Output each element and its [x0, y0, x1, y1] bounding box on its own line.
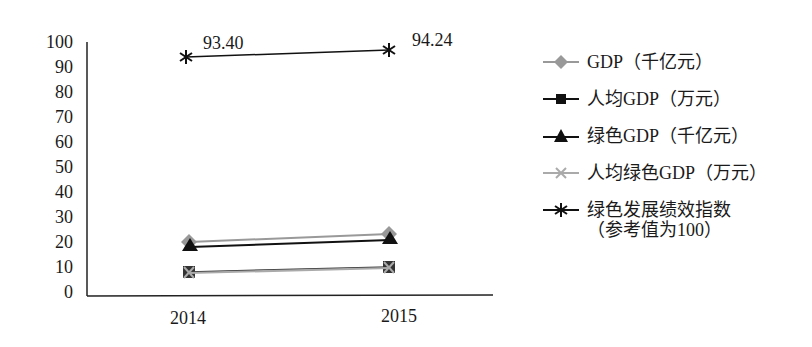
legend-item-per-capita-green-gdp: 人均绿色GDP（万元） — [543, 163, 803, 200]
y-tick: 30 — [55, 207, 73, 227]
legend-label: 绿色发展绩效指数 （参考值为100） — [587, 200, 731, 240]
diamond-marker-icon — [543, 52, 579, 72]
legend-item-gdp: GDP（千亿元） — [543, 52, 803, 89]
legend-item-green-index: 绿色发展绩效指数 （参考值为100） — [543, 200, 803, 237]
x-tick: 2014 — [170, 308, 206, 328]
y-tick: 20 — [55, 232, 73, 252]
x-marker-icon — [543, 163, 579, 183]
y-tick: 40 — [55, 182, 73, 202]
legend-label: 人均绿色GDP（万元） — [587, 163, 767, 183]
y-tick: 60 — [55, 132, 73, 152]
y-tick: 50 — [55, 157, 73, 177]
data-label-2015: 94.24 — [412, 30, 453, 50]
series-per-capita-green-gdp — [184, 262, 394, 278]
y-tick: 90 — [55, 57, 73, 77]
data-labels: 93.40 94.24 — [203, 30, 453, 53]
x-tick: 2015 — [381, 306, 417, 326]
y-tick-labels: 100 90 80 70 60 50 40 30 20 10 0 — [46, 32, 73, 302]
legend-item-green-gdp: 绿色GDP（千亿元） — [543, 126, 803, 163]
y-tick: 0 — [64, 282, 73, 302]
legend-label: 人均GDP（万元） — [587, 89, 731, 109]
square-marker-icon — [543, 89, 579, 109]
y-tick: 80 — [55, 82, 73, 102]
legend: GDP（千亿元） 人均GDP（万元） 绿色GDP（千亿元） 人均绿色GDP（万元… — [543, 52, 803, 237]
y-tick: 70 — [55, 107, 73, 127]
star-marker-icon — [543, 200, 579, 220]
legend-item-per-capita-gdp: 人均GDP（万元） — [543, 89, 803, 126]
data-label-2014: 93.40 — [203, 33, 244, 53]
legend-label: GDP（千亿元） — [587, 52, 713, 72]
legend-label: 绿色GDP（千亿元） — [587, 126, 749, 146]
triangle-marker-icon — [543, 126, 579, 146]
y-tick: 10 — [55, 257, 73, 277]
y-tick: 100 — [46, 32, 73, 52]
x-tick-labels: 2014 2015 — [170, 306, 417, 328]
x-axis — [87, 295, 493, 296]
